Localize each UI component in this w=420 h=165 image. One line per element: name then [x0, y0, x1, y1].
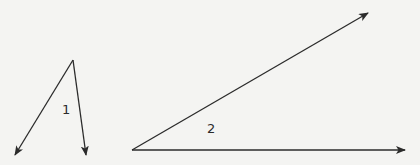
angle-1-label: 1: [62, 102, 70, 117]
angle-1-ray-right: [73, 60, 86, 155]
angle-1: 1: [15, 60, 86, 155]
angle-2-label: 2: [207, 121, 215, 136]
angle-2-ray-upper: [132, 13, 368, 150]
angle-2: 2: [132, 13, 405, 150]
angles-diagram: 1 2: [0, 0, 420, 165]
